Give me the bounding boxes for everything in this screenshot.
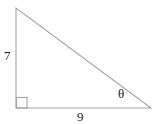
angle-label: θ xyxy=(118,86,124,101)
right-angle-marker xyxy=(17,98,28,109)
triangle-outline xyxy=(16,8,151,108)
horizontal-side-label: 9 xyxy=(77,109,84,124)
triangle-diagram: 7 9 θ xyxy=(0,0,157,124)
triangle-svg: 7 9 θ xyxy=(0,0,157,124)
vertical-side-label: 7 xyxy=(4,48,11,63)
